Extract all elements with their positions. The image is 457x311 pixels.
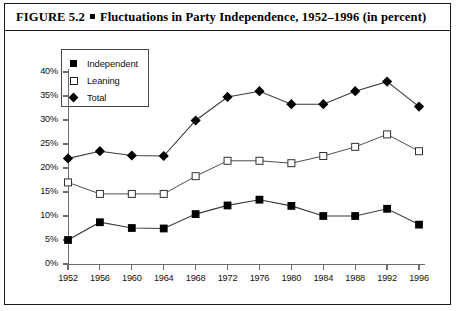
data-point-independent [256, 196, 264, 204]
figure-title-text: Fluctuations in Party Independence, 1952… [100, 10, 426, 24]
data-point-independent [96, 218, 104, 226]
data-point-total [286, 99, 296, 109]
filled-square-bullet-icon [90, 14, 95, 19]
data-point-independent [287, 202, 295, 210]
data-point-independent [192, 210, 200, 218]
data-point-leaning [65, 179, 72, 186]
data-point-leaning [256, 157, 263, 164]
data-point-independent [224, 202, 232, 210]
data-point-independent [128, 224, 136, 232]
data-point-leaning [384, 131, 391, 138]
data-point-independent [319, 212, 327, 220]
data-point-total [414, 101, 424, 111]
figure-title: FIGURE 5.2Fluctuations in Party Independ… [5, 10, 426, 25]
series-line-independent [68, 200, 419, 240]
data-point-independent [383, 205, 391, 213]
data-point-total [63, 153, 73, 163]
data-point-leaning [96, 190, 103, 197]
series-line-leaning [68, 134, 419, 194]
data-point-leaning [128, 190, 135, 197]
data-point-leaning [160, 190, 167, 197]
figure-frame: FIGURE 5.2Fluctuations in Party Independ… [4, 3, 451, 305]
figure-title-bar: FIGURE 5.2Fluctuations in Party Independ… [5, 4, 450, 31]
data-point-total [350, 86, 360, 96]
data-point-total [222, 92, 232, 102]
chart-plot-area: Independent Leaning Total 0%5%10%15%20%2… [5, 31, 450, 305]
data-point-leaning [352, 143, 359, 150]
data-point-independent [160, 225, 168, 233]
data-point-independent [415, 221, 423, 229]
data-point-total [127, 150, 137, 160]
data-point-leaning [288, 160, 295, 167]
series-line-total [68, 82, 419, 159]
figure-number: FIGURE 5.2 [16, 10, 85, 24]
data-point-total [382, 77, 392, 87]
data-point-leaning [320, 153, 327, 160]
data-point-total [95, 146, 105, 156]
data-point-independent [64, 236, 72, 244]
data-point-leaning [224, 157, 231, 164]
data-point-leaning [192, 173, 199, 180]
data-point-leaning [416, 148, 423, 155]
data-point-independent [351, 212, 359, 220]
data-point-total [318, 99, 328, 109]
data-point-total [254, 86, 264, 96]
chart-series-layer [5, 31, 452, 305]
